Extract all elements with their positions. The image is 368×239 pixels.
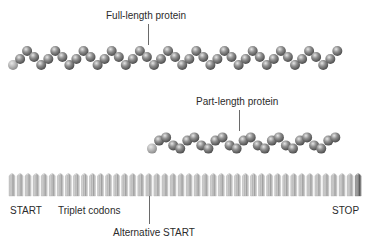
codon — [170, 174, 176, 197]
codon — [90, 174, 96, 197]
codon — [114, 174, 120, 197]
codon — [138, 174, 144, 197]
codon — [106, 174, 112, 197]
codon — [57, 174, 63, 197]
codon — [218, 174, 224, 197]
part-length-leader-line — [239, 110, 240, 131]
codon — [146, 174, 152, 197]
codon — [259, 174, 265, 197]
codon — [339, 174, 345, 197]
codon — [49, 174, 55, 197]
triplet-codon-row — [9, 174, 361, 197]
codon — [194, 174, 200, 197]
amino-acid-bead — [156, 54, 166, 64]
codon — [242, 174, 248, 197]
codon — [162, 174, 168, 197]
codon — [130, 174, 136, 197]
amino-acid-bead — [241, 54, 251, 64]
codon — [267, 174, 273, 197]
codon — [25, 174, 31, 197]
amino-acid-bead — [330, 132, 340, 142]
amino-acid-bead — [142, 52, 152, 62]
codon — [9, 174, 15, 197]
amino-acid-bead — [302, 132, 312, 142]
start-label: START — [10, 205, 42, 216]
amino-acid-bead — [203, 144, 213, 154]
full-length-protein-label: Full-length protein — [106, 10, 186, 21]
amino-acid-bead — [288, 144, 298, 154]
amino-acid-bead — [297, 54, 307, 64]
alternative-start-leader-line — [149, 196, 150, 224]
amino-acid-bead — [316, 144, 326, 154]
codon — [283, 174, 289, 197]
amino-acid-bead — [175, 144, 185, 154]
amino-acid-bead — [311, 52, 321, 62]
codon — [323, 174, 329, 197]
codon — [291, 174, 297, 197]
amino-acid-bead — [260, 144, 270, 154]
codon — [210, 174, 216, 197]
codon — [234, 174, 240, 197]
codon — [299, 174, 305, 197]
codon — [154, 174, 160, 197]
triplet-codons-label: Triplet codons — [58, 205, 120, 216]
amino-acid-bead — [114, 52, 124, 62]
codon — [186, 174, 192, 197]
codon — [251, 174, 257, 197]
codon — [226, 174, 232, 197]
amino-acid-bead — [71, 54, 81, 64]
amino-acid-bead — [283, 52, 293, 62]
full-length-protein-chain — [8, 46, 342, 70]
codon — [315, 174, 321, 197]
codon — [202, 174, 208, 197]
amino-acid-bead — [218, 132, 228, 142]
codon — [275, 174, 281, 197]
amino-acid-bead — [212, 54, 222, 64]
amino-acid-bead — [198, 52, 208, 62]
codon — [307, 174, 313, 197]
amino-acid-bead — [184, 54, 194, 64]
amino-acid-bead — [255, 52, 265, 62]
protein-codon-diagram — [0, 0, 368, 239]
codon — [81, 174, 87, 197]
amino-acid-bead — [29, 52, 39, 62]
part-length-protein-chain — [147, 132, 340, 153]
part-length-protein-label: Part-length protein — [196, 96, 278, 107]
amino-acid-bead — [170, 52, 180, 62]
amino-acid-bead — [227, 52, 237, 62]
amino-acid-bead — [100, 54, 110, 64]
codon — [41, 174, 47, 197]
codon — [33, 174, 39, 197]
amino-acid-bead — [161, 132, 171, 142]
codon — [178, 174, 184, 197]
codon — [331, 174, 337, 197]
amino-acid-bead — [128, 54, 138, 64]
codon — [65, 174, 71, 197]
codon — [98, 174, 104, 197]
amino-acid-bead — [86, 52, 96, 62]
amino-acid-bead — [325, 54, 335, 64]
codon — [347, 174, 353, 197]
full-length-leader-line — [148, 24, 149, 45]
stop-codon — [355, 174, 361, 197]
codon — [17, 174, 23, 197]
amino-acid-bead — [43, 54, 53, 64]
alternative-start-label: Alternative START — [113, 227, 195, 238]
first-amino-acid-bead — [147, 144, 157, 154]
amino-acid-bead — [246, 132, 256, 142]
codon — [122, 174, 128, 197]
amino-acid-bead — [189, 132, 199, 142]
amino-acid-bead — [332, 46, 342, 56]
amino-acid-bead — [274, 132, 284, 142]
amino-acid-bead — [57, 52, 67, 62]
amino-acid-bead — [15, 54, 25, 64]
amino-acid-bead — [269, 54, 279, 64]
stop-label: STOP — [332, 205, 359, 216]
amino-acid-bead — [232, 144, 242, 154]
codon — [73, 174, 79, 197]
